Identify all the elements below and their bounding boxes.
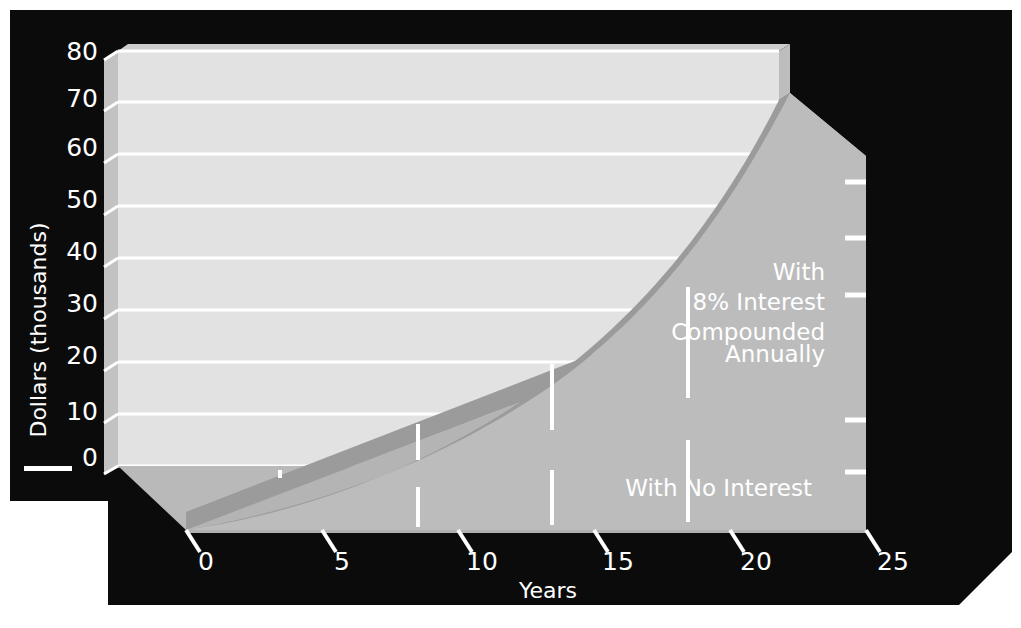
y-tick-10: 10 (66, 397, 98, 426)
y-tick-30: 30 (66, 289, 98, 318)
y-axis-title: Dollars (thousands) (26, 222, 51, 437)
floor-front-edge (186, 530, 866, 533)
y-tick-70: 70 (66, 84, 98, 113)
x-axis-title: Years (518, 578, 577, 603)
compound-interest-3d-area-chart: 80 70 60 50 40 30 20 10 0 Dollars (thous… (0, 0, 1021, 628)
label-8pct-line2: 8% Interest (693, 289, 825, 315)
x-tick-5: 5 (334, 547, 350, 576)
y-axis-baseline-mark (24, 466, 72, 471)
label-no-interest-line1: With No Interest (625, 475, 812, 501)
x-tick-15: 15 (602, 547, 634, 576)
y-tick-80: 80 (66, 37, 98, 66)
y-tick-50: 50 (66, 185, 98, 214)
x-tick-0: 0 (198, 547, 214, 576)
chart-screenshot: 80 70 60 50 40 30 20 10 0 Dollars (thous… (0, 0, 1021, 628)
series-label-no-interest: With No Interest (625, 475, 812, 501)
x-tick-25: 25 (877, 547, 909, 576)
y-axis-tick-labels: 80 70 60 50 40 30 20 10 0 (66, 37, 98, 472)
x-tick-10: 10 (466, 547, 498, 576)
label-8pct-line1: With (773, 259, 825, 285)
y-axis-title-text: Dollars (thousands) (26, 222, 51, 437)
y-tick-60: 60 (66, 133, 98, 162)
y-tick-0: 0 (82, 443, 98, 472)
label-8pct-line4: Annually (725, 341, 825, 367)
y-tick-40: 40 (66, 237, 98, 266)
y-tick-20: 20 (66, 341, 98, 370)
x-tick-20: 20 (740, 547, 772, 576)
